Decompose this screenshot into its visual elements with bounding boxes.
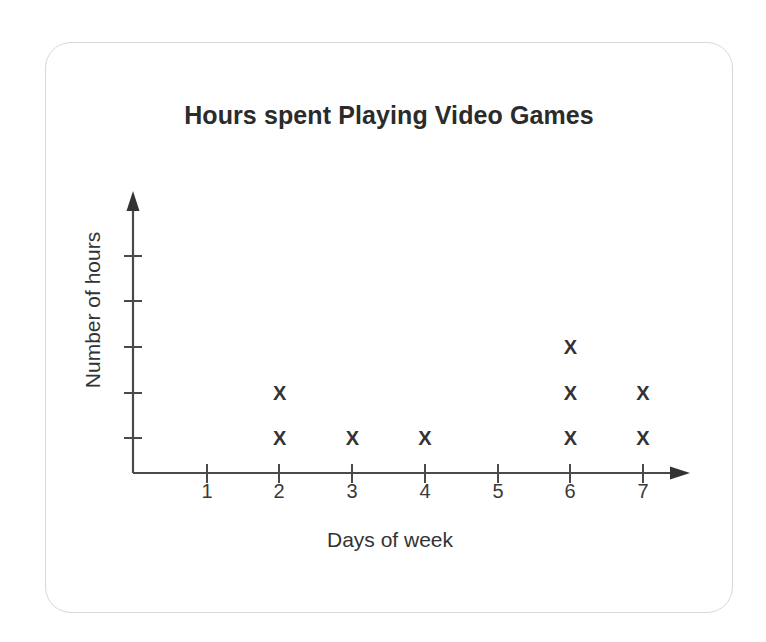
chart-card: Hours spent Playing Video Games bbox=[45, 42, 733, 613]
x-tick-label-2: 2 bbox=[259, 480, 299, 503]
data-point-day3-level1: X bbox=[339, 425, 365, 451]
data-point-day4-level1: X bbox=[412, 425, 438, 451]
data-point-day7-level1: X bbox=[630, 425, 656, 451]
x-tick-label-1: 1 bbox=[187, 480, 227, 503]
x-tick-label-6: 6 bbox=[550, 480, 590, 503]
screenshot-root: Hours spent Playing Video Games bbox=[0, 0, 766, 642]
data-point-day2-level2: X bbox=[267, 380, 293, 406]
y-axis-arrow-icon bbox=[127, 191, 140, 211]
data-point-day6-level2: X bbox=[557, 380, 583, 406]
data-point-day2-level1: X bbox=[267, 425, 293, 451]
x-tick-label-7: 7 bbox=[623, 480, 663, 503]
x-tick-label-5: 5 bbox=[478, 480, 518, 503]
plot-area: 1 2 3 4 5 6 7 XXXXXXXXX Number of hours … bbox=[46, 43, 734, 614]
data-point-day6-level3: X bbox=[557, 334, 583, 360]
x-axis-title: Days of week bbox=[46, 528, 734, 552]
x-tick-label-3: 3 bbox=[332, 480, 372, 503]
y-axis-title: Number of hours bbox=[81, 200, 105, 420]
x-axis-arrow-icon bbox=[670, 467, 690, 480]
data-point-day6-level1: X bbox=[557, 425, 583, 451]
x-tick-label-4: 4 bbox=[405, 480, 445, 503]
data-point-day7-level2: X bbox=[630, 380, 656, 406]
